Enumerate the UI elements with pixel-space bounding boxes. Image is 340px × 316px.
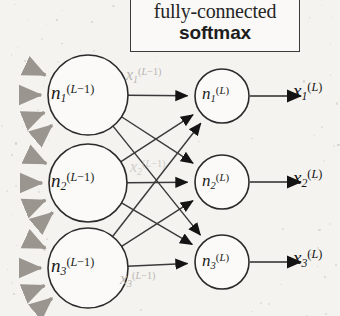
node-label-out-1: n1(L) — [202, 84, 229, 104]
figure-canvas: fully-connected softmax n1(L−1) n2(L−1) … — [0, 0, 340, 316]
annotation-box: fully-connected softmax — [130, 0, 300, 52]
node-label-prev-2: n2(L−1) — [51, 170, 94, 194]
node-label-out-3: n3(L) — [202, 251, 229, 271]
activation-label-out-2: x2(L) — [293, 167, 322, 191]
node-label-prev-3: n3(L−1) — [51, 255, 94, 279]
node-label-out-2: n2(L) — [202, 171, 229, 191]
node-label-prev-1: n1(L−1) — [51, 82, 94, 106]
activation-label-out-1: x1(L) — [293, 80, 322, 104]
activation-label-prev-2: x2(L−1) — [130, 158, 166, 177]
softmax-label: softmax — [179, 23, 251, 42]
activation-label-out-3: x3(L) — [293, 247, 322, 271]
fully-connected-label: fully-connected — [154, 1, 277, 21]
activation-label-prev-1: x1(L−1) — [126, 66, 162, 85]
activation-label-prev-3: x3(L−1) — [120, 270, 156, 289]
